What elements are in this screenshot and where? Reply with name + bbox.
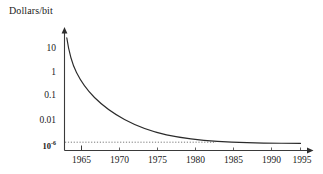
y-tick-exponent: -6 xyxy=(51,140,56,146)
y-tick-label-0.01: 0.01 xyxy=(20,115,56,125)
y-axis xyxy=(62,27,68,151)
y-tick-label-10: 10 xyxy=(30,43,56,53)
y-tick-mantissa: 10 xyxy=(43,141,52,151)
x-tick-label-1965: 1965 xyxy=(72,155,91,165)
x-tick-label-1990: 1990 xyxy=(262,155,281,165)
x-tick-label-1985: 1985 xyxy=(224,155,243,165)
x-tick-label-1975: 1975 xyxy=(148,155,167,165)
y-axis-arrowhead xyxy=(62,27,68,34)
chart-page: Dollars/bit 10 1 0.1 0.01 1 xyxy=(0,0,323,174)
y-tick-label-1: 1 xyxy=(30,67,56,77)
x-tick-label-1995: 1995 xyxy=(293,155,312,165)
y-tick-label-0.1: 0.1 xyxy=(25,90,56,100)
x-axis-arrowhead xyxy=(307,148,314,154)
cost-per-bit-curve xyxy=(67,38,301,144)
x-tick-label-1980: 1980 xyxy=(186,155,205,165)
y-tick-label-10e-6: 10-6 xyxy=(24,141,56,151)
x-axis-ticks xyxy=(82,146,301,151)
x-axis xyxy=(65,148,314,154)
x-tick-label-1970: 1970 xyxy=(110,155,129,165)
